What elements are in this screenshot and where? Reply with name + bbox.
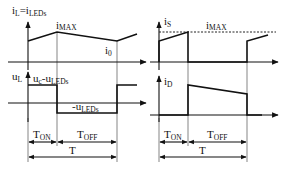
low-level-label: -uLEDs (72, 100, 99, 114)
switch-current-waveform (159, 32, 268, 62)
inductor-voltage-plot: uL uc-uLEDs -uLEDs (8, 70, 146, 122)
y-axis-label: iL=iLEDs (12, 4, 47, 18)
diode-current-waveform (159, 85, 262, 115)
ton-label: TON (33, 128, 51, 142)
toff-label: TOFF (77, 128, 98, 142)
imax-label: iMAX (56, 19, 77, 32)
inductor-current-waveform (28, 32, 137, 41)
y-axis-label: uL (12, 70, 23, 84)
inductor-current-plot: iL=iLEDs iMAX i0 (8, 4, 146, 70)
right-timing: TON TOFF T (160, 128, 246, 157)
i0-label: i0 (105, 44, 112, 58)
switch-current-plot: iS iMAX (150, 15, 278, 70)
period-label: T (69, 144, 76, 156)
left-timing: TON TOFF T (29, 128, 116, 157)
period-label: T (199, 144, 206, 156)
imax-label: iMAX (206, 19, 227, 32)
waveform-diagram: iL=iLEDs iMAX i0 uL uc-uLEDs -uLEDs (0, 0, 296, 170)
ton-label: TON (164, 128, 182, 142)
toff-label: TOFF (207, 128, 228, 142)
high-level-label: uc-uLEDs (33, 72, 69, 86)
diode-current-plot: iD (150, 75, 278, 122)
y-axis-label: iS (164, 15, 171, 29)
right-panel: iS iMAX iD TON TOFF T (150, 15, 278, 162)
y-axis-label: iD (164, 75, 173, 89)
left-panel: iL=iLEDs iMAX i0 uL uc-uLEDs -uLEDs (8, 4, 146, 162)
